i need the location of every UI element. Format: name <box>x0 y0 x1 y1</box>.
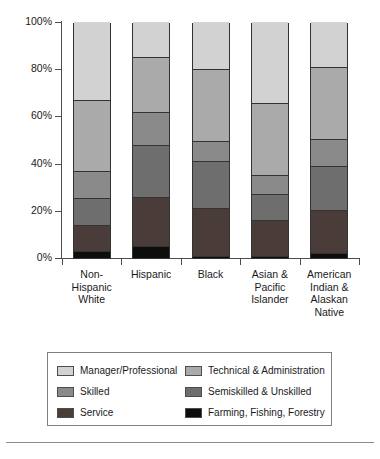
y-tick-label: 80% <box>4 63 52 74</box>
bar-segment <box>133 145 169 197</box>
bar-american-indian-alaskan-native <box>310 23 348 259</box>
x-tick-mark <box>62 259 63 265</box>
x-label-line: American <box>298 268 360 281</box>
bar-segment <box>74 198 110 225</box>
legend-items: Manager/ProfessionalTechnical & Administ… <box>57 360 325 423</box>
x-tick-mark <box>359 259 360 265</box>
bar-segment <box>252 194 288 220</box>
bar-segment <box>311 67 347 139</box>
legend-label: Manager/Professional <box>80 365 177 376</box>
y-tick-mark <box>55 258 62 259</box>
x-label-hispanic: Hispanic <box>120 268 182 281</box>
bar-segment <box>74 251 110 258</box>
x-label-line: Islander <box>239 293 301 306</box>
bar-segment <box>193 208 229 255</box>
x-label-line: White <box>61 293 123 306</box>
bar-segment <box>133 197 169 247</box>
bar-segment <box>311 139 347 166</box>
bar-segment <box>74 22 110 100</box>
bar-asian-pacific-islander <box>251 23 289 259</box>
x-label-line: Hispanic <box>120 268 182 281</box>
bar-black <box>192 23 230 259</box>
x-label-line: Native <box>298 306 360 319</box>
legend-swatch-icon <box>185 408 202 418</box>
bar-segment <box>193 161 229 208</box>
legend-swatch-icon <box>57 408 74 418</box>
y-tick-mark <box>55 211 62 212</box>
bar-hispanic <box>132 23 170 259</box>
legend-swatch-icon <box>57 366 74 376</box>
y-tick-mark <box>55 116 62 117</box>
bar-segment <box>252 175 288 194</box>
bar-segment <box>252 220 288 255</box>
legend-item[interactable]: Technical & Administration <box>185 365 325 376</box>
y-tick-mark <box>55 22 62 23</box>
bar-segment <box>74 100 110 171</box>
legend-swatch-icon <box>57 387 74 397</box>
legend-swatch-icon <box>185 387 202 397</box>
x-tick-mark <box>300 259 301 265</box>
plot-area <box>62 22 359 259</box>
legend-label: Farming, Fishing, Forestry <box>208 407 325 418</box>
legend-swatch-icon <box>185 366 202 376</box>
y-tick-label: 60% <box>4 110 52 121</box>
x-tick-mark <box>240 259 241 265</box>
legend-label: Technical & Administration <box>208 365 325 376</box>
x-tick-mark <box>121 259 122 265</box>
x-label-american-indian-alaskan-native: AmericanIndian &AlaskanNative <box>298 268 360 318</box>
bar-segment <box>133 57 169 111</box>
bar-segment <box>193 22 229 69</box>
legend-item[interactable]: Service <box>57 407 185 418</box>
x-label-line: Black <box>180 268 242 281</box>
y-tick-label: 40% <box>4 158 52 169</box>
x-label-line: Asian & <box>239 268 301 281</box>
x-label-line: Non- <box>61 268 123 281</box>
y-tick-mark <box>55 69 62 70</box>
legend: Manager/ProfessionalTechnical & Administ… <box>47 352 332 426</box>
legend-label: Semiskilled & Unskilled <box>208 386 311 397</box>
x-label-black: Black <box>180 268 242 281</box>
bar-segment <box>193 256 229 258</box>
bar-segment <box>252 22 288 103</box>
legend-label: Skilled <box>80 386 109 397</box>
bar-segment <box>133 22 169 57</box>
x-label-asian-pacific-islander: Asian &PacificIslander <box>239 268 301 306</box>
bar-segment <box>311 210 347 254</box>
legend-label: Service <box>80 407 113 418</box>
bar-segment <box>252 256 288 258</box>
bar-segment <box>311 253 347 258</box>
bar-segment <box>193 69 229 141</box>
bar-segment <box>133 112 169 145</box>
x-label-line: Indian & <box>298 281 360 294</box>
x-tick-mark <box>181 259 182 265</box>
bar-segment <box>133 246 169 258</box>
x-label-line: Hispanic <box>61 281 123 294</box>
stacked-bar-chart: 0%20%40%60%80%100% Non-HispanicWhiteHisp… <box>0 0 380 459</box>
legend-item[interactable]: Skilled <box>57 386 185 397</box>
y-tick-mark <box>55 164 62 165</box>
footer-divider <box>6 442 374 443</box>
bar-segment <box>311 22 347 67</box>
bar-non-hispanic-white <box>73 23 111 259</box>
bar-segment <box>252 103 288 175</box>
x-label-line: Pacific <box>239 281 301 294</box>
bar-segment <box>74 171 110 198</box>
bar-segment <box>311 166 347 210</box>
x-label-non-hispanic-white: Non-HispanicWhite <box>61 268 123 306</box>
legend-item[interactable]: Semiskilled & Unskilled <box>185 386 325 397</box>
bar-segment <box>193 141 229 161</box>
y-tick-label: 20% <box>4 205 52 216</box>
y-tick-label: 0% <box>4 252 52 263</box>
bar-segment <box>74 225 110 251</box>
x-label-line: Alaskan <box>298 293 360 306</box>
legend-item[interactable]: Farming, Fishing, Forestry <box>185 407 325 418</box>
legend-item[interactable]: Manager/Professional <box>57 365 185 376</box>
y-tick-label: 100% <box>4 16 52 27</box>
